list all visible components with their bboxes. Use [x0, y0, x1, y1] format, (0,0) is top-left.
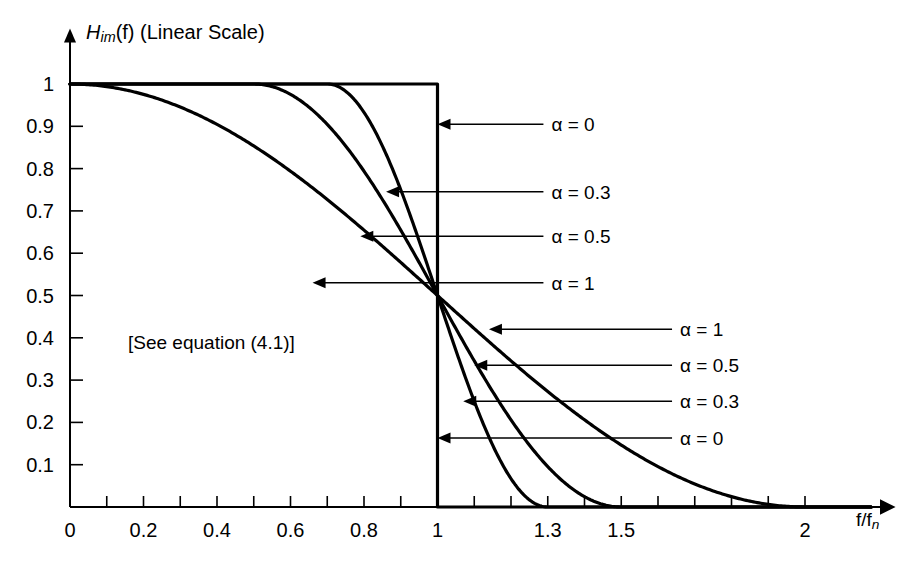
curve-alpha-0-3	[70, 84, 871, 507]
y-tick-label: 0.4	[0, 328, 54, 348]
callout-lower-arrowhead-0	[489, 324, 502, 335]
y-axis-title: Him(f) (Linear Scale)	[86, 22, 265, 45]
x-tick-label: 0	[64, 520, 75, 540]
alpha-label-lower: α = 0.3	[680, 392, 739, 411]
x-tick-label: 0.8	[350, 520, 378, 540]
alpha-label-lower: α = 0	[680, 429, 723, 448]
x-tick-label: 1.3	[534, 520, 562, 540]
alpha-label-upper: α = 0	[551, 115, 594, 134]
y-axis-title-rest: (f) (Linear Scale)	[116, 21, 265, 43]
y-tick-label: 0.2	[0, 412, 54, 432]
callouts-layer	[313, 119, 673, 444]
x-axis-title-main: f/f	[856, 509, 872, 530]
y-tick-label: 0.6	[0, 243, 54, 263]
callout-lower-arrowhead-2	[463, 396, 476, 407]
x-tick-label: 2	[799, 520, 810, 540]
alpha-label-upper: α = 0.3	[551, 182, 610, 201]
y-axis-arrowhead	[64, 29, 76, 43]
y-tick-label: 1	[0, 74, 54, 94]
equation-reference-note: [See equation (4.1)]	[128, 333, 295, 352]
y-axis-title-sub: im	[100, 29, 115, 45]
alpha-label-upper: α = 1	[551, 273, 594, 292]
y-tick-label: 0.1	[0, 455, 54, 475]
y-tick-label: 0.8	[0, 159, 54, 179]
callout-lower-arrowhead-3	[438, 433, 451, 444]
y-tick-label: 0.3	[0, 370, 54, 390]
curve-alpha-0-5	[70, 84, 871, 507]
y-tick-label: 0.5	[0, 286, 54, 306]
alpha-label-upper: α = 0.5	[551, 227, 610, 246]
axes-layer	[64, 29, 881, 507]
alpha-label-lower: α = 0.5	[680, 356, 739, 375]
y-axis-title-main: H	[86, 21, 100, 43]
figure-raised-cosine-response: Him(f) (Linear Scale) f/fn [See equation…	[0, 0, 912, 570]
x-axis-title: f/fn	[856, 510, 879, 532]
x-tick-label: 1	[432, 520, 443, 540]
callout-upper-arrowhead-0	[438, 119, 451, 130]
x-tick-label: 0.2	[130, 520, 158, 540]
curves-layer	[70, 84, 871, 507]
y-tick-label: 0.9	[0, 116, 54, 136]
curve-alpha-0	[70, 84, 871, 507]
chart-canvas	[0, 0, 912, 570]
x-tick-label: 1.5	[607, 520, 635, 540]
x-tick-label: 0.6	[277, 520, 305, 540]
alpha-label-lower: α = 1	[680, 320, 723, 339]
x-tick-label: 0.4	[203, 520, 231, 540]
x-axis-title-sub: n	[872, 517, 880, 532]
callout-upper-arrowhead-3	[313, 277, 326, 288]
curve-alpha-1	[70, 84, 871, 507]
y-tick-label: 0.7	[0, 201, 54, 221]
callout-upper-arrowhead-1	[386, 186, 399, 197]
